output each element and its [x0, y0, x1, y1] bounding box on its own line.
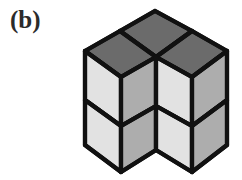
figure-panel: (b)	[0, 0, 242, 180]
isometric-cubes-figure	[0, 0, 242, 180]
